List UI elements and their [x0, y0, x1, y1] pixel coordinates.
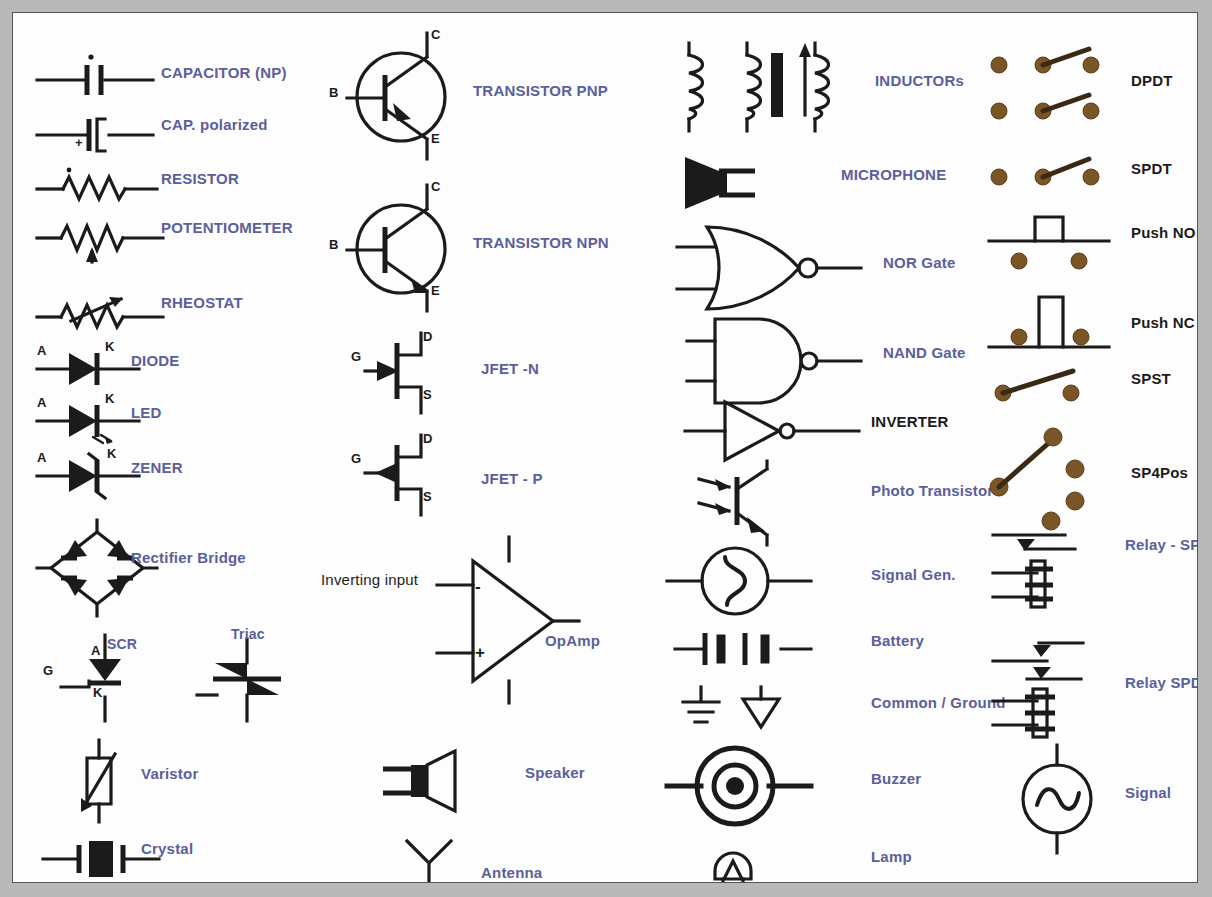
- label-cap-polarized: CAP. polarized: [161, 117, 268, 134]
- label-signal-gen: Signal Gen.: [871, 567, 956, 584]
- label-lamp: Lamp: [871, 849, 912, 866]
- label-crystal: Crystal: [141, 841, 193, 858]
- pin-cap-plus: +: [75, 135, 83, 150]
- pin-jfetn-drain: D: [423, 329, 432, 344]
- label-jfet-n: JFET -N: [481, 361, 539, 378]
- opamp-icon: [413, 535, 573, 705]
- nor-gate-icon: [675, 221, 865, 315]
- label-speaker: Speaker: [525, 765, 585, 782]
- label-nor-gate: NOR Gate: [883, 255, 955, 272]
- label-relay-spst: Relay - SPST: [1125, 537, 1198, 554]
- label-nand-gate: NAND Gate: [883, 345, 966, 362]
- signal-icon: [1005, 743, 1115, 853]
- antenna-icon: [395, 839, 465, 883]
- label-rheostat: RHEOSTAT: [161, 295, 243, 312]
- pin-opamp-noninverting: +: [475, 643, 485, 663]
- jfet-p-icon: [365, 433, 455, 517]
- pin-scr-gate: G: [43, 663, 53, 678]
- pin-zener-cathode: K: [107, 446, 116, 461]
- pin-npn-base: B: [329, 237, 338, 252]
- label-transistor-npn: TRANSISTOR NPN: [473, 235, 609, 252]
- label-relay-spdt: Relay SPDT: [1125, 675, 1198, 692]
- pin-zener-anode: A: [37, 450, 46, 465]
- label-antenna: Antenna: [481, 865, 542, 882]
- speaker-icon: [381, 749, 491, 813]
- label-led: LED: [131, 405, 162, 422]
- transistor-npn-icon: [341, 183, 461, 313]
- label-inverter: INVERTER: [871, 414, 948, 431]
- label-inductors: INDUCTORs: [875, 73, 964, 90]
- label-potentiometer: POTENTIOMETER: [161, 220, 293, 237]
- microphone-icon: [679, 155, 809, 211]
- capacitor-np-icon: [35, 53, 155, 93]
- nand-gate-icon: [685, 315, 865, 407]
- buzzer-icon: [665, 741, 815, 831]
- relay-spst-icon: [991, 529, 1111, 615]
- label-resistor: RESISTOR: [161, 171, 239, 188]
- label-triac: Triac: [231, 627, 265, 642]
- inverter-icon: [683, 398, 863, 464]
- spdt-icon: [989, 153, 1119, 193]
- column-transistors-and-amplifier: B C E TRANSISTOR PNP B C E TRANS: [313, 13, 643, 882]
- label-jfet-p: JFET - P: [481, 471, 543, 488]
- inductors-icon: [675, 41, 855, 133]
- pin-jfetn-gate: G: [351, 349, 361, 364]
- pin-pnp-collector: C: [431, 27, 440, 42]
- photo-transistor-icon: [685, 461, 805, 545]
- label-opamp: OpAmp: [545, 633, 600, 650]
- pin-opamp-inverting: -: [475, 577, 481, 597]
- label-spst: SPST: [1131, 371, 1171, 388]
- label-sp4pos: SP4Pos: [1131, 465, 1188, 482]
- label-push-no: Push NO: [1131, 225, 1196, 242]
- label-battery: Battery: [871, 633, 924, 650]
- column-passives-and-diodes: CAPACITOR (NP) + CAP. polarized: [13, 13, 313, 882]
- label-opamp-inverting-input: Inverting input: [321, 571, 418, 588]
- pin-pnp-emitter: E: [431, 131, 440, 146]
- push-nc-icon: [989, 293, 1119, 355]
- column-switches-and-relays: DPDT SPDT Push: [973, 13, 1198, 882]
- pin-diode-anode: A: [37, 343, 46, 358]
- label-rectifier-bridge: Rectifier Bridge: [131, 550, 246, 567]
- pin-npn-emitter: E: [431, 283, 440, 298]
- pin-jfetp-drain: D: [423, 431, 432, 446]
- pin-jfetp-gate: G: [351, 451, 361, 466]
- label-zener: ZENER: [131, 460, 183, 477]
- signal-gen-icon: [665, 543, 815, 619]
- pin-scr-cathode: K: [93, 685, 102, 700]
- sp4pos-icon: [989, 425, 1119, 529]
- jfet-n-icon: [365, 331, 455, 415]
- label-microphone: MICROPHONE: [841, 167, 946, 184]
- lamp-icon: [697, 837, 777, 883]
- varistor-icon: [65, 738, 135, 824]
- label-transistor-pnp: TRANSISTOR PNP: [473, 83, 608, 100]
- pin-jfetp-source: S: [423, 489, 432, 504]
- pin-diode-cathode: K: [105, 339, 114, 354]
- common-ground-icon: [677, 685, 807, 735]
- potentiometer-icon: [35, 218, 170, 266]
- spst-icon: [989, 365, 1119, 409]
- relay-spdt-icon: [991, 639, 1111, 749]
- label-buzzer: Buzzer: [871, 771, 921, 788]
- pin-scr-anode: A: [91, 643, 100, 658]
- resistor-icon: [35, 165, 165, 201]
- pin-led-anode: A: [37, 395, 46, 410]
- label-signal: Signal: [1125, 785, 1171, 802]
- label-spdt: SPDT: [1131, 161, 1172, 178]
- label-varistor: Varistor: [141, 766, 198, 783]
- triac-icon: [195, 637, 295, 723]
- dpdt-icon: [989, 49, 1119, 129]
- battery-icon: [673, 627, 813, 671]
- symbols-chart-sheet: CAPACITOR (NP) + CAP. polarized: [12, 12, 1198, 883]
- label-scr: SCR: [107, 637, 137, 652]
- transistor-pnp-icon: [341, 31, 461, 161]
- rectifier-bridge-icon: [35, 518, 165, 618]
- push-no-icon: [989, 211, 1119, 271]
- pin-jfetn-source: S: [423, 387, 432, 402]
- label-dpdt: DPDT: [1131, 73, 1173, 90]
- pin-pnp-base: B: [329, 85, 338, 100]
- label-diode: DIODE: [131, 353, 180, 370]
- column-magnetics-logic-sources: INDUCTORs MICROPHONE NOR: [643, 13, 973, 882]
- cap-polarized-icon: [35, 111, 155, 155]
- pin-led-cathode: K: [105, 391, 114, 406]
- pin-npn-collector: C: [431, 179, 440, 194]
